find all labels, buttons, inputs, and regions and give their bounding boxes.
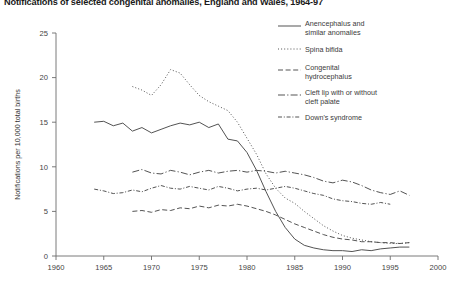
x-tick-label: 1965	[95, 263, 112, 272]
x-tick-label: 1995	[382, 263, 399, 272]
chart-figure: Notifications of selected congenital ano…	[0, 0, 461, 290]
y-tick-label: 25	[40, 29, 48, 38]
legend-label-anencephalus: Anencephalus and similar anomalies	[305, 19, 365, 38]
series-line-3	[132, 169, 409, 195]
y-tick-label: 10	[40, 163, 48, 172]
x-tick-label: 1970	[143, 263, 160, 272]
y-tick-label: 0	[44, 252, 48, 261]
y-axis-label: Notifications per 10,000 total births	[13, 89, 22, 200]
y-tick-label: 15	[40, 118, 48, 127]
legend-label-downs-syndrome: Down's syndrome	[305, 113, 362, 122]
x-tick-label: 1985	[286, 263, 303, 272]
series-line-4	[94, 186, 390, 205]
y-tick-label: 5	[44, 207, 48, 216]
y-tick-label: 20	[40, 73, 48, 82]
series-line-2	[132, 204, 409, 243]
axes-group: 0510152025196019651970197519801985199019…	[13, 29, 446, 272]
chart-plot-area: 0510152025196019651970197519801985199019…	[0, 0, 461, 290]
legend-lines-group	[278, 26, 301, 117]
legend-label-congenital-hydrocephalus: Congenital hydrocephalus	[305, 63, 352, 82]
x-tick-label: 2000	[430, 263, 447, 272]
legend-label-spina-bifida: Spina bifida	[305, 45, 343, 54]
legend-label-cleft-lip: Cleft lip with or without cleft palate	[305, 88, 377, 107]
x-tick-label: 1975	[191, 263, 208, 272]
x-tick-label: 1980	[239, 263, 256, 272]
x-tick-label: 1990	[334, 263, 351, 272]
x-tick-label: 1960	[48, 263, 65, 272]
series-line-0	[94, 121, 409, 251]
